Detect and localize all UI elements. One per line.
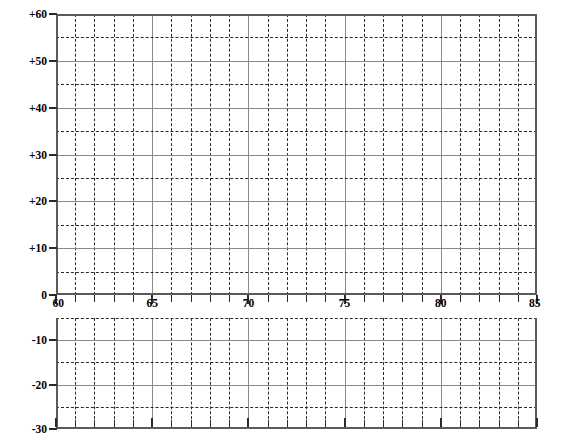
lower-axis-right xyxy=(535,318,537,429)
x-tick-mark xyxy=(479,420,480,427)
x-tick-mark xyxy=(402,420,403,427)
gridline-x-minor xyxy=(114,318,115,429)
gridline-x-minor xyxy=(210,318,211,429)
upper-plot-area xyxy=(56,14,537,295)
gridline-x-minor xyxy=(364,318,365,429)
upper-panel: +60+50+40+30+20+100 xyxy=(56,14,537,295)
gridline-y-major xyxy=(56,340,537,341)
gridline-x-major xyxy=(345,318,346,429)
gridline-x-minor xyxy=(133,318,134,429)
y-tick-label: +40 xyxy=(29,102,56,114)
gridline-x-minor xyxy=(402,318,403,429)
gridline-x-minor xyxy=(287,318,288,429)
gridline-y-minor xyxy=(56,131,537,132)
lower-axis-left xyxy=(56,318,58,429)
lower-panel: -10-20-30 xyxy=(56,318,537,429)
x-tick-mark xyxy=(287,420,288,427)
lower-axis-bottom xyxy=(56,427,537,429)
x-tick-mark xyxy=(75,420,76,427)
gridline-x-minor xyxy=(229,318,230,429)
x-tick-mark xyxy=(325,420,326,427)
gridline-y-minor xyxy=(56,225,537,226)
gridline-x-minor xyxy=(518,318,519,429)
gridline-x-major xyxy=(152,318,153,429)
gridline-y-major xyxy=(56,61,537,62)
lower-plot-area xyxy=(56,318,537,429)
gridline-x-minor xyxy=(422,318,423,429)
gridline-y-minor xyxy=(56,318,537,319)
gridline-x-minor xyxy=(191,318,192,429)
y-tick-label: +20 xyxy=(29,195,56,207)
x-tick-mark xyxy=(499,420,500,427)
x-tick-mark xyxy=(460,420,461,427)
chart-root: +60+50+40+30+20+100 606570758085 -10-20-… xyxy=(0,0,563,447)
gridline-y-minor xyxy=(56,178,537,179)
y-tick-label: -30 xyxy=(32,423,56,435)
upper-axis-bottom xyxy=(56,293,537,295)
gridline-x-minor xyxy=(306,318,307,429)
y-tick-label: +10 xyxy=(29,242,56,254)
x-tick-mark xyxy=(344,418,346,427)
gridline-y-minor xyxy=(56,37,537,38)
gridline-x-minor xyxy=(171,318,172,429)
y-tick-label: +30 xyxy=(29,149,56,161)
x-tick-mark xyxy=(536,418,538,427)
x-tick-mark xyxy=(114,420,115,427)
gridline-x-minor xyxy=(325,318,326,429)
y-tick-label: +50 xyxy=(29,55,56,67)
gridline-y-major xyxy=(56,248,537,249)
gridline-y-major xyxy=(56,201,537,202)
x-axis-label-band: 606570758085 xyxy=(56,297,537,313)
upper-axis-top xyxy=(56,14,537,16)
x-tick-mark xyxy=(210,420,211,427)
y-tick-label: -20 xyxy=(32,379,56,391)
x-tick-mark xyxy=(364,420,365,427)
x-tick-mark xyxy=(383,420,384,427)
x-tick-label: 75 xyxy=(339,297,351,309)
x-tick-mark xyxy=(306,420,307,427)
x-tick-mark xyxy=(191,420,192,427)
gridline-x-minor xyxy=(383,318,384,429)
gridline-y-minor xyxy=(56,84,537,85)
gridline-x-major xyxy=(248,318,249,429)
x-tick-label: 80 xyxy=(435,297,447,309)
x-tick-mark xyxy=(518,420,519,427)
x-tick-mark xyxy=(171,420,172,427)
gridline-y-major xyxy=(56,108,537,109)
x-tick-label: 85 xyxy=(529,297,541,309)
gridline-y-minor xyxy=(56,272,537,273)
x-tick-mark xyxy=(247,418,249,427)
x-tick-label: 70 xyxy=(243,297,255,309)
gridline-y-minor xyxy=(56,362,537,363)
x-tick-mark xyxy=(268,420,269,427)
x-tick-mark xyxy=(133,420,134,427)
gridline-y-minor xyxy=(56,407,537,408)
x-tick-mark xyxy=(422,420,423,427)
x-tick-label: 65 xyxy=(146,297,158,309)
x-tick-mark xyxy=(151,418,153,427)
gridline-x-minor xyxy=(94,318,95,429)
upper-axis-right xyxy=(535,14,537,295)
gridline-x-minor xyxy=(460,318,461,429)
gridline-y-major xyxy=(56,155,537,156)
gridline-x-minor xyxy=(499,318,500,429)
gridline-x-major xyxy=(441,318,442,429)
x-tick-mark xyxy=(229,420,230,427)
gridline-x-minor xyxy=(268,318,269,429)
y-tick-label: +60 xyxy=(29,8,56,20)
x-tick-mark xyxy=(94,420,95,427)
gridline-x-minor xyxy=(479,318,480,429)
x-tick-mark xyxy=(440,418,442,427)
y-tick-label: -10 xyxy=(32,334,56,346)
x-tick-label: 60 xyxy=(53,297,65,309)
gridline-y-major xyxy=(56,385,537,386)
gridline-x-minor xyxy=(75,318,76,429)
